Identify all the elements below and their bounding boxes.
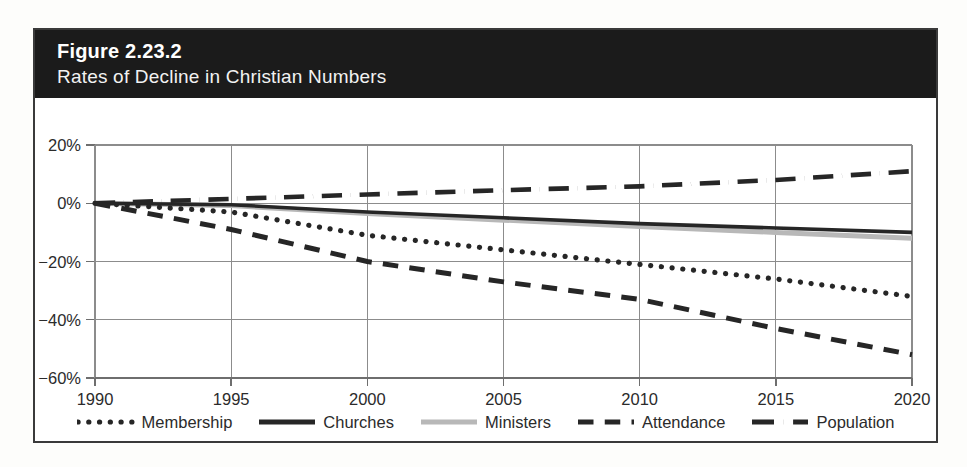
- y-tick-label: 20%: [48, 136, 81, 154]
- y-tick-label: −60%: [38, 369, 81, 387]
- legend-label: Attendance: [642, 413, 725, 432]
- solid-line-swatch: [258, 415, 316, 429]
- figure-number: Figure 2.23.2: [57, 38, 936, 64]
- legend-label: Churches: [323, 413, 394, 432]
- legend-label: Population: [816, 413, 894, 432]
- legend-item-membership[interactable]: Membership: [77, 413, 233, 432]
- y-tick-label: 0%: [57, 194, 81, 212]
- x-tick-label: 2010: [621, 390, 658, 408]
- figure-frame: Figure 2.23.2 Rates of Decline in Christ…: [33, 28, 938, 443]
- legend-label: Ministers: [485, 413, 551, 432]
- x-tick-label: 2015: [757, 390, 794, 408]
- legend-item-attendance[interactable]: Attendance: [577, 413, 725, 432]
- dashed-line-swatch: [577, 415, 635, 429]
- legend-item-population[interactable]: Population: [751, 413, 894, 432]
- x-tick-label: 1995: [213, 390, 250, 408]
- x-tick-label: 1990: [77, 390, 114, 408]
- figure-subtitle: Rates of Decline in Christian Numbers: [57, 64, 936, 90]
- x-tick-label: 2000: [349, 390, 386, 408]
- x-tick-label: 2005: [485, 390, 522, 408]
- y-tick-label: −20%: [38, 253, 81, 271]
- line-chart: 20%0%−20%−40%−60%19901995200020052010201…: [35, 98, 936, 441]
- plot-area: 20%0%−20%−40%−60%19901995200020052010201…: [35, 98, 936, 441]
- dashdot-line-swatch: [751, 415, 809, 429]
- chart-legend: MembershipChurchesMinistersAttendancePop…: [35, 409, 936, 435]
- dotted-line-swatch: [77, 415, 135, 429]
- legend-item-ministers[interactable]: Ministers: [420, 413, 551, 432]
- y-tick-label: −40%: [38, 311, 81, 329]
- legend-item-churches[interactable]: Churches: [258, 413, 394, 432]
- figure-title-band: Figure 2.23.2 Rates of Decline in Christ…: [35, 30, 936, 98]
- legend-label: Membership: [142, 413, 233, 432]
- gray-solid-line-swatch: [420, 415, 478, 429]
- x-tick-label: 2020: [894, 390, 931, 408]
